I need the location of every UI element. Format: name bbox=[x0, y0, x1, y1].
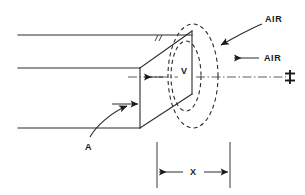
face-corner-tick bbox=[155, 35, 158, 41]
area-label: A bbox=[85, 142, 92, 152]
vortex-inner-ellipse bbox=[171, 41, 201, 111]
velocity-label: V bbox=[181, 66, 187, 76]
face-top-receding-edge bbox=[140, 31, 192, 68]
centerline-symbol-mark bbox=[285, 70, 295, 84]
air-upper-annotation bbox=[221, 24, 262, 45]
air-upper-curved-leader bbox=[221, 24, 262, 45]
vortex-ring bbox=[168, 24, 218, 128]
area-curved-leader bbox=[90, 106, 127, 137]
vortex-outer-ellipse bbox=[168, 24, 218, 128]
diagram-canvas: AIR AIR V A X bbox=[0, 0, 305, 195]
area-annotation bbox=[90, 104, 138, 137]
duct-exit-face bbox=[140, 31, 192, 128]
face-bottom-receding-edge bbox=[140, 94, 192, 128]
air-lower-label: AIR bbox=[264, 53, 281, 63]
air-upper-label: AIR bbox=[265, 14, 282, 24]
dimension-x bbox=[157, 142, 230, 188]
duct-airflow-diagram: AIR AIR V A X bbox=[0, 0, 305, 195]
face-corner-tick-2 bbox=[159, 35, 162, 41]
distance-label: X bbox=[190, 167, 196, 177]
